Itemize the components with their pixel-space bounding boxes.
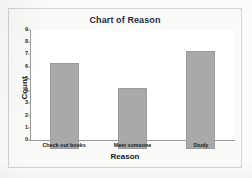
bar: [118, 88, 147, 149]
y-tick-mark: [28, 103, 30, 104]
y-tick-mark: [28, 91, 30, 92]
plot-region: 0123456789 Check out booksMeet someoneSt…: [30, 30, 235, 149]
x-tick-label: Meet someone: [114, 143, 151, 148]
scanned-figure-page: Chart of Reason Count 0123456789 Check o…: [0, 0, 252, 178]
x-tick-label: Study: [193, 143, 208, 148]
x-tick-label: Check out books: [42, 143, 85, 148]
y-axis-line: [30, 30, 31, 140]
y-tick-mark: [28, 78, 30, 79]
y-tick-mark: [28, 140, 30, 141]
bar: [50, 63, 79, 149]
bar: [186, 51, 215, 149]
y-tick-mark: [28, 66, 30, 67]
y-tick-mark: [28, 30, 30, 31]
y-tick-mark: [28, 42, 30, 43]
chart-title: Chart of Reason: [9, 15, 241, 25]
y-tick-mark: [28, 54, 30, 55]
y-tick-mark: [28, 127, 30, 128]
chart-frame: Chart of Reason Count 0123456789 Check o…: [8, 8, 242, 168]
y-tick-mark: [28, 115, 30, 116]
x-axis-title: Reason: [9, 152, 241, 161]
